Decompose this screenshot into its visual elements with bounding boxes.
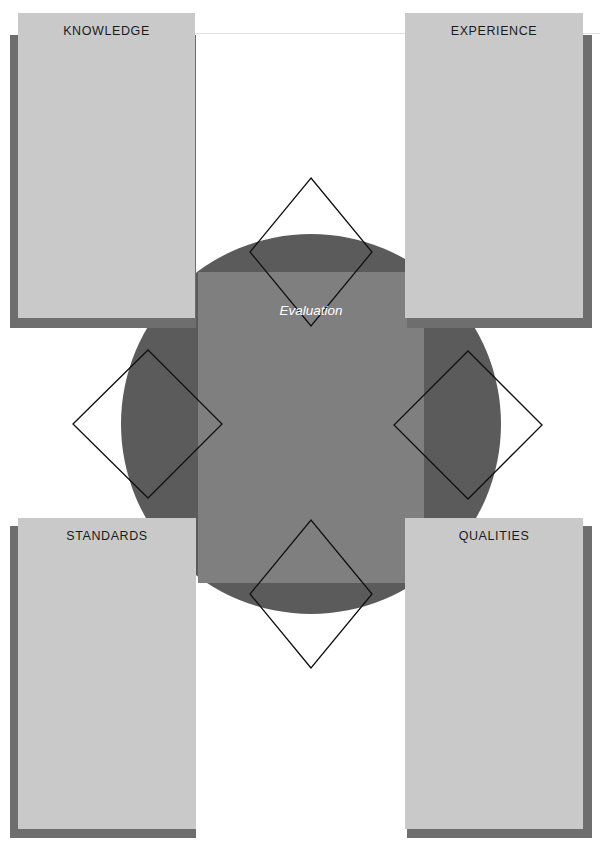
panel-standards-face: STANDARDS bbox=[18, 518, 196, 829]
panel-knowledge[interactable]: KNOWLEDGE bbox=[10, 13, 195, 328]
panel-experience-label: EXPERIENCE bbox=[405, 24, 583, 38]
panel-experience-face: EXPERIENCE bbox=[405, 13, 583, 318]
panel-standards[interactable]: STANDARDS bbox=[10, 518, 196, 838]
center-square bbox=[198, 272, 424, 583]
center-label: Evaluation bbox=[198, 303, 424, 318]
panel-standards-label: STANDARDS bbox=[18, 529, 196, 543]
diagram-canvas: KNOWLEDGE EXPERIENCE STANDARDS QUALITIES… bbox=[0, 0, 600, 844]
panel-experience[interactable]: EXPERIENCE bbox=[405, 13, 592, 328]
panel-qualities-label: QUALITIES bbox=[405, 529, 583, 543]
panel-knowledge-label: KNOWLEDGE bbox=[18, 24, 195, 38]
panel-qualities[interactable]: QUALITIES bbox=[405, 518, 592, 838]
panel-knowledge-face: KNOWLEDGE bbox=[18, 13, 195, 318]
panel-qualities-face: QUALITIES bbox=[405, 518, 583, 829]
